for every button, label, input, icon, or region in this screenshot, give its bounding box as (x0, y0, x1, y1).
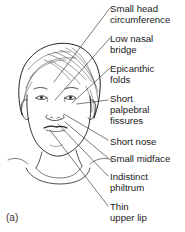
leader-lines (50, 8, 110, 206)
label-small-head-circumference: Small head circumference (110, 3, 170, 25)
label-thin-upper-lip: Thin upper lip (110, 201, 147, 223)
fas-facial-features-diagram: Small head circumference Low nasal bridg… (0, 0, 185, 232)
child-face-illustration (0, 0, 185, 232)
label-low-nasal-bridge: Low nasal bridge (110, 33, 153, 55)
panel-label: (a) (6, 212, 18, 223)
label-short-palpebral-fissures: Short palpebral fissures (110, 93, 149, 126)
label-small-midface: Small midface (110, 153, 170, 164)
label-short-nose: Short nose (110, 136, 156, 147)
label-indistinct-philtrum: Indistinct philtrum (110, 171, 148, 193)
label-epicanthic-folds: Epicanthic folds (110, 63, 154, 85)
